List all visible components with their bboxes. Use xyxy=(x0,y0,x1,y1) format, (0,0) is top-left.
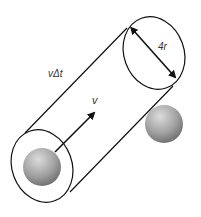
velocity-arrow xyxy=(55,113,94,152)
velocity-label: v xyxy=(92,94,99,106)
diameter-arrow xyxy=(134,31,175,77)
diameter-label: 4r xyxy=(158,41,168,52)
target-molecule xyxy=(145,105,183,143)
collision-cylinder-diagram: 4r vΔt v xyxy=(0,0,201,217)
length-label: vΔt xyxy=(48,68,64,79)
moving-molecule xyxy=(23,148,61,186)
cylinder-upper-edge xyxy=(25,28,127,133)
